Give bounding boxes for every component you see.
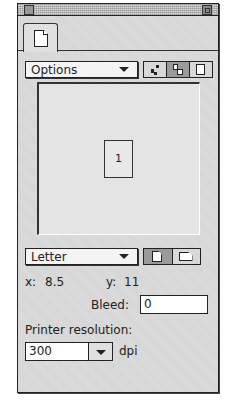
chevron-down-icon [119, 67, 129, 72]
palette-content: Options 1 Letter [18, 51, 218, 392]
zoom-box-icon[interactable] [202, 5, 212, 15]
tab-document[interactable] [23, 23, 58, 52]
bleed-input[interactable]: 0 [140, 295, 208, 314]
title-bar[interactable] [18, 4, 218, 16]
paper-size-label: Letter [31, 250, 67, 264]
orientation-button-group [143, 248, 201, 265]
document-setup-palette: Options 1 Letter [17, 3, 219, 393]
options-popup-label: Options [31, 63, 77, 77]
y-label: y: [106, 275, 116, 289]
document-corner-fold [43, 30, 48, 35]
printer-resolution-dropdown[interactable] [89, 342, 113, 361]
stacked-pages-button[interactable] [167, 62, 190, 77]
scatter-dot [156, 65, 159, 68]
portrait-icon [152, 251, 162, 262]
portrait-button[interactable] [144, 249, 173, 264]
single-page-icon [196, 64, 205, 75]
landscape-icon [179, 252, 193, 261]
stacked-page-lower [177, 69, 183, 75]
single-page-button[interactable] [190, 62, 212, 77]
landscape-button[interactable] [173, 249, 201, 264]
close-box-icon[interactable] [24, 5, 34, 15]
x-label: x: [25, 275, 36, 289]
options-popup[interactable]: Options [25, 61, 138, 78]
page-thumbnail[interactable]: 1 [104, 140, 133, 178]
scatter-dot [154, 72, 157, 75]
page-preview: 1 [37, 82, 200, 235]
printer-resolution-input[interactable]: 300 [25, 342, 89, 361]
paper-size-popup[interactable]: Letter [25, 248, 138, 265]
tab-strip [18, 16, 218, 51]
y-value: 11 [124, 275, 139, 289]
bleed-label: Bleed: [91, 298, 129, 312]
printer-resolution-label: Printer resolution: [25, 323, 132, 337]
x-value: 8.5 [45, 275, 64, 289]
dpi-unit-label: dpi [119, 344, 138, 358]
chevron-down-icon [119, 254, 129, 259]
layout-button-group [143, 61, 213, 78]
scatter-pages-button[interactable] [144, 62, 167, 77]
